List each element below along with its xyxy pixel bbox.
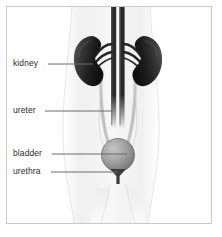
- label-bladder: bladder: [13, 148, 42, 158]
- urinary-system-figure: kidney ureter bladder urethra: [0, 0, 222, 237]
- label-kidney: kidney: [13, 58, 38, 68]
- leader-lines: [0, 0, 222, 237]
- label-ureter: ureter: [13, 105, 36, 115]
- label-urethra: urethra: [13, 166, 41, 176]
